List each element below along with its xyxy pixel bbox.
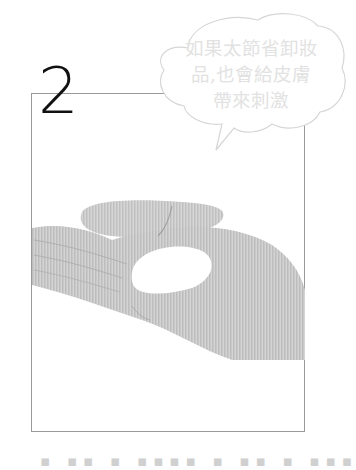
speech-bubble-text: 如果太節省卸妝 品,也會給皮膚 帶來刺激 bbox=[176, 36, 326, 114]
step-number: 2 bbox=[38, 56, 79, 126]
caption-cut-off: ▪ ▪▪ ▪ ▪▪▪▪ ▪ ▪▪ ▪ ▪▪▪ bbox=[40, 452, 310, 470]
speech-bubble-line-3: 帶來刺激 bbox=[176, 88, 326, 114]
speech-bubble-line-1: 如果太節省卸妝 bbox=[176, 36, 326, 62]
speech-bubble-line-2: 品,也會給皮膚 bbox=[176, 62, 326, 88]
hand-illustration bbox=[32, 200, 305, 360]
